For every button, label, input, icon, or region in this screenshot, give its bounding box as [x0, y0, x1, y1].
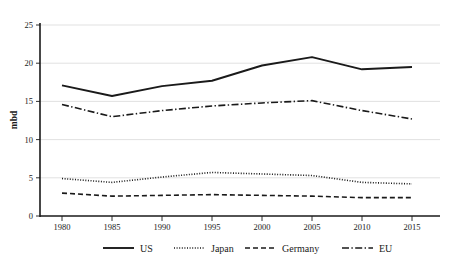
- y-tick-label-5: 5: [29, 173, 33, 183]
- legend-label-us: US: [140, 243, 153, 254]
- x-tick-label-1995: 1995: [204, 222, 221, 232]
- chart-canvas: 25 20 15 10 5 0 mbd 1980 1985 1990 1995 …: [0, 0, 455, 265]
- series-line-germany: [62, 193, 412, 198]
- legend-label-japan: Japan: [211, 243, 234, 254]
- y-tick-label-15: 15: [25, 96, 34, 106]
- y-tick-label-0: 0: [29, 211, 33, 221]
- y-tick-label-10: 10: [25, 135, 34, 145]
- series-line-eu: [62, 101, 412, 119]
- x-tick-label-1980: 1980: [54, 222, 71, 232]
- x-tick-label-2005: 2005: [304, 222, 321, 232]
- y-axis: 25 20 15 10 5 0 mbd: [9, 20, 40, 221]
- y-tick-label-20: 20: [25, 58, 34, 68]
- legend-label-germany: Germany: [282, 243, 319, 254]
- gridlines: [40, 25, 440, 178]
- x-tick-label-2000: 2000: [254, 222, 271, 232]
- chart-legend: US Japan Germany EU: [103, 243, 393, 254]
- y-axis-title: mbd: [9, 110, 19, 129]
- x-tick-label-1985: 1985: [104, 222, 121, 232]
- line-chart: 25 20 15 10 5 0 mbd 1980 1985 1990 1995 …: [0, 0, 455, 265]
- legend-item-japan[interactable]: Japan: [174, 243, 234, 254]
- x-tick-label-1990: 1990: [154, 222, 171, 232]
- legend-item-us[interactable]: US: [103, 243, 153, 254]
- x-tick-label-2015: 2015: [404, 222, 421, 232]
- x-tick-label-2010: 2010: [354, 222, 371, 232]
- x-axis: 1980 1985 1990 1995 2000 2005 2010 2015: [40, 216, 440, 232]
- legend-item-eu[interactable]: EU: [342, 243, 393, 254]
- series-group: [62, 57, 412, 198]
- y-tick-label-25: 25: [25, 20, 34, 30]
- legend-item-germany[interactable]: Germany: [245, 243, 319, 254]
- legend-label-eu: EU: [379, 243, 393, 254]
